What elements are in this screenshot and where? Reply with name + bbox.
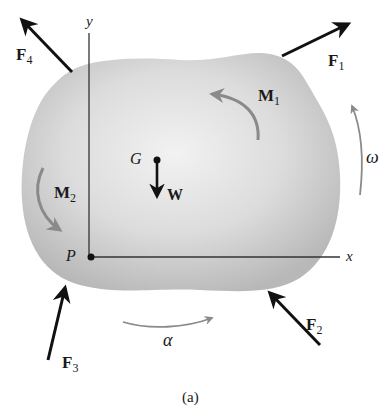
center-of-gravity-label: G	[130, 150, 142, 167]
x-axis-label: x	[345, 248, 353, 264]
force-f4-label: F4	[16, 45, 32, 67]
force-f3-arrow-icon	[48, 288, 65, 360]
angular-acceleration-arc-icon	[123, 318, 212, 327]
weight-label: W	[167, 186, 183, 203]
force-f1-label: F1	[328, 51, 344, 73]
rigid-body-free-body-diagram: y x P G W F1 F2 F3 F4 M1 M2 ω α (a)	[0, 0, 388, 412]
point-p-dot	[88, 254, 95, 261]
point-p-label: P	[65, 247, 76, 264]
figure-caption: (a)	[182, 389, 199, 406]
y-axis-label: y	[84, 13, 93, 29]
force-f2-label: F2	[306, 315, 322, 337]
force-f3-label: F3	[62, 353, 78, 375]
angular-velocity-label: ω	[366, 147, 379, 167]
angular-velocity-arc-icon	[352, 106, 362, 195]
angular-acceleration-label: α	[163, 330, 173, 350]
